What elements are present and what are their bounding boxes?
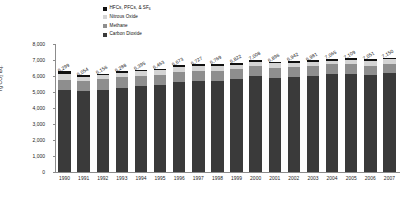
bar-segment[interactable]	[192, 71, 205, 81]
x-axis-tick-label: 2000	[246, 176, 265, 181]
stacked-bar[interactable]: 6,822	[230, 63, 243, 172]
x-axis-tick-label: 2006	[361, 176, 380, 181]
bar-column[interactable]: 6,769	[208, 44, 227, 172]
bar-segment[interactable]	[135, 86, 148, 172]
bar-segment[interactable]	[77, 91, 90, 172]
legend-swatch-icon	[103, 15, 107, 19]
stacked-bar[interactable]: 6,981	[307, 60, 320, 172]
bar-segment[interactable]	[345, 64, 358, 73]
y-axis-tick-label: 1,000	[32, 153, 45, 159]
x-axis-tick-label: 1997	[189, 176, 208, 181]
legend-item[interactable]: HFCs, PFCs, & SF6	[103, 5, 151, 12]
bar-segment[interactable]	[173, 82, 186, 172]
bar-segment[interactable]	[383, 73, 396, 172]
chart-legend: HFCs, PFCs, & SF6Nitrous OxideMethaneCar…	[103, 5, 151, 40]
stacked-bar[interactable]: 6,769	[211, 64, 224, 172]
bar-column[interactable]: 7,051	[361, 44, 380, 172]
y-axis-title: Tg CO2 Eq.	[0, 65, 3, 92]
bar-segment[interactable]	[345, 74, 358, 172]
bar-segment[interactable]	[135, 76, 148, 86]
bar-segment[interactable]	[230, 69, 243, 79]
bar-segment[interactable]	[326, 74, 339, 172]
y-axis-tick-label: 8,000	[32, 41, 45, 47]
bar-column[interactable]: 6,981	[303, 44, 322, 172]
bar-segment[interactable]	[116, 77, 129, 87]
bar-segment[interactable]	[269, 68, 282, 78]
bar-segment[interactable]	[173, 72, 186, 82]
bar-column[interactable]: 6,822	[227, 44, 246, 172]
bar-column[interactable]: 6,156	[93, 44, 112, 172]
stacked-bar[interactable]: 6,896	[269, 62, 282, 172]
stacked-bar[interactable]: 6,463	[154, 69, 167, 172]
stacked-bar[interactable]: 7,150	[383, 58, 396, 172]
bar-column[interactable]: 6,054	[74, 44, 93, 172]
bar-group: 6,2996,0546,1566,2886,3956,4636,6736,727…	[55, 44, 399, 172]
bar-segment[interactable]	[58, 80, 71, 90]
bar-column[interactable]: 6,727	[189, 44, 208, 172]
stacked-bar[interactable]: 6,299	[58, 71, 71, 172]
plot-area: 6,2996,0546,1566,2886,3956,4636,6736,727…	[55, 44, 399, 172]
bar-segment[interactable]	[307, 66, 320, 76]
stacked-bar[interactable]: 6,156	[97, 74, 110, 172]
bar-segment[interactable]	[77, 81, 90, 91]
legend-item[interactable]: Nitrous Oxide	[103, 14, 151, 21]
bar-segment[interactable]	[288, 77, 301, 172]
bar-column[interactable]: 7,150	[380, 44, 399, 172]
legend-item[interactable]: Carbon Dioxide	[103, 31, 151, 38]
x-axis-tick-label: 2001	[265, 176, 284, 181]
bar-segment[interactable]	[230, 79, 243, 172]
stacked-bar[interactable]: 7,051	[364, 59, 377, 172]
bar-segment[interactable]	[211, 71, 224, 81]
x-axis-tick-label: 2005	[342, 176, 361, 181]
stacked-bar[interactable]: 7,065	[326, 59, 339, 172]
legend-item-label: HFCs, PFCs, & SF6	[110, 6, 151, 11]
bar-column[interactable]: 6,463	[151, 44, 170, 172]
stacked-bar[interactable]: 6,727	[192, 64, 205, 172]
bar-segment[interactable]	[97, 90, 110, 172]
stacked-column-chart: HFCs, PFCs, & SF6Nitrous OxideMethaneCar…	[0, 0, 407, 200]
x-axis-line	[55, 172, 400, 173]
stacked-bar[interactable]: 6,942	[288, 61, 301, 172]
legend-item-subscript: 6	[149, 7, 151, 11]
bar-segment[interactable]	[249, 66, 262, 76]
bar-segment[interactable]	[154, 85, 167, 172]
bar-segment[interactable]	[326, 64, 339, 74]
stacked-bar[interactable]: 7,109	[345, 58, 358, 172]
bar-column[interactable]: 7,008	[246, 44, 265, 172]
bar-segment[interactable]	[307, 76, 320, 172]
y-axis-tick-label: 5,000	[32, 89, 45, 95]
bar-column[interactable]: 6,288	[112, 44, 131, 172]
bar-segment[interactable]	[58, 90, 71, 172]
bar-column[interactable]: 7,065	[323, 44, 342, 172]
bar-segment[interactable]	[192, 81, 205, 172]
stacked-bar[interactable]: 6,673	[173, 65, 186, 172]
bar-segment[interactable]	[154, 75, 167, 86]
bar-segment[interactable]	[269, 78, 282, 172]
stacked-bar[interactable]: 6,395	[135, 70, 148, 172]
y-axis-title-main: Tg CO	[0, 77, 3, 92]
bar-segment[interactable]	[97, 79, 110, 89]
bar-segment[interactable]	[364, 66, 377, 75]
bar-column[interactable]: 6,896	[265, 44, 284, 172]
bar-column[interactable]: 6,673	[170, 44, 189, 172]
bar-segment[interactable]	[364, 75, 377, 172]
bar-segment[interactable]	[249, 76, 262, 172]
stacked-bar[interactable]: 7,008	[249, 60, 262, 172]
x-axis-tick-label: 1996	[170, 176, 189, 181]
bar-segment[interactable]	[383, 64, 396, 73]
stacked-bar[interactable]: 6,288	[116, 71, 129, 172]
bar-column[interactable]: 6,942	[284, 44, 303, 172]
bar-segment[interactable]	[116, 88, 129, 172]
x-axis-tick-label: 1992	[93, 176, 112, 181]
bar-column[interactable]: 6,299	[55, 44, 74, 172]
legend-swatch-icon	[103, 33, 107, 37]
y-axis-title-subscript: 2	[0, 75, 4, 77]
x-axis-tick-label: 2007	[380, 176, 399, 181]
bar-segment[interactable]	[211, 81, 224, 172]
bar-column[interactable]: 6,395	[131, 44, 150, 172]
bar-column[interactable]: 7,109	[342, 44, 361, 172]
bar-segment[interactable]	[288, 67, 301, 77]
legend-item[interactable]: Methane	[103, 22, 151, 29]
legend-item-label: Carbon Dioxide	[110, 32, 142, 37]
stacked-bar[interactable]: 6,054	[77, 75, 90, 172]
